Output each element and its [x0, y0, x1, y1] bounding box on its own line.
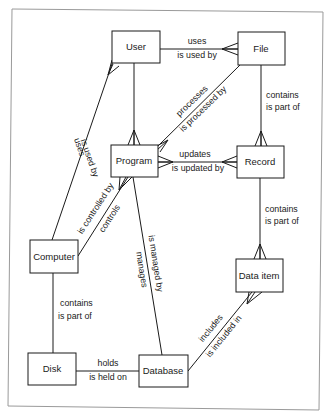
entity-label-program: Program — [116, 155, 153, 166]
rel-label-is-part-of-computer-disk: is part of — [58, 311, 92, 321]
entity-label-data-item: Data item — [239, 270, 280, 281]
crows-foot-icon — [119, 177, 132, 190]
rel-label-uses: uses — [188, 36, 207, 46]
rel-label-is-updated-by: is updated by — [172, 163, 225, 173]
rel-label-contains-computer-disk: contains — [60, 298, 93, 308]
crows-foot-icon — [255, 131, 267, 146]
crows-foot-icon — [222, 156, 237, 168]
rel-label-holds: holds — [97, 358, 119, 368]
crows-foot-icon — [158, 156, 173, 168]
rel-label-is-held-on: is held on — [89, 372, 127, 382]
crows-foot-icon — [128, 130, 140, 145]
rel-label-updates: updates — [179, 149, 211, 159]
crows-foot-icon — [247, 292, 262, 304]
rel-label-is-used-by-computer: is used by — [79, 138, 102, 179]
entity-label-file: File — [253, 43, 268, 54]
entity-label-record: Record — [245, 156, 276, 167]
er-diagram: User File Program Record Computer Data i… — [0, 0, 333, 419]
crows-foot-icon — [254, 244, 266, 259]
entity-label-database: Database — [143, 365, 184, 376]
entity-label-computer: Computer — [33, 251, 75, 262]
rel-label-contains-file-record: contains — [266, 90, 299, 100]
crows-foot-icon — [222, 43, 238, 55]
rel-label-manages: manages — [134, 251, 150, 289]
entity-label-disk: Disk — [43, 363, 62, 374]
rel-label-is-part-of-file-record: is part of — [266, 102, 300, 112]
rel-label-is-part-of-record-dataitem: is part of — [265, 216, 299, 226]
rel-label-contains-record-dataitem: contains — [265, 204, 298, 214]
rel-label-is-used-by: is used by — [177, 50, 217, 60]
entity-label-user: User — [126, 41, 146, 52]
